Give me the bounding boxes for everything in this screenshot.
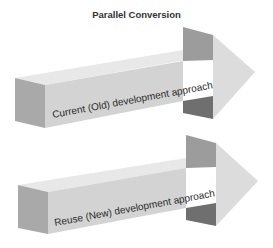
arrow-end-cap <box>18 185 48 234</box>
arrow-end-cap <box>15 78 45 128</box>
arrow-current-old: Current (Old) development approach <box>15 27 255 128</box>
arrow-lower-flange <box>183 96 213 119</box>
diagram-canvas: Current (Old) development approach Reuse… <box>0 0 273 248</box>
arrow-upper-flange <box>183 27 213 61</box>
arrow-head <box>213 35 255 119</box>
arrow-head <box>216 143 258 226</box>
arrow-reuse-new: Reuse (New) development approach <box>18 135 258 234</box>
arrow-lower-flange <box>186 203 216 226</box>
arrow-upper-flange <box>186 135 216 168</box>
